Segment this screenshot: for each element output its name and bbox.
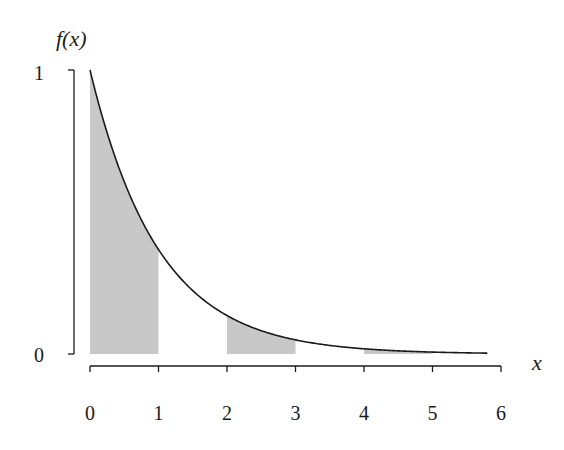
x-tick-labels: 0123456	[85, 402, 506, 424]
x-tick-label-2: 2	[222, 402, 232, 424]
y-tick-label-0: 0	[34, 344, 44, 366]
x-axis	[90, 366, 501, 372]
x-tick-label-5: 5	[428, 402, 438, 424]
x-tick-label-4: 4	[359, 402, 369, 424]
y-axis	[68, 70, 74, 354]
x-tick-label-3: 3	[291, 402, 301, 424]
y-tick-label-1: 1	[34, 62, 44, 84]
x-axis-label: x	[531, 350, 542, 375]
y-axis-label: f(x)	[56, 26, 87, 51]
exponential-density-chart: f(x) 1 0 0123456 x	[0, 0, 564, 450]
x-tick-label-6: 6	[496, 402, 506, 424]
shaded-areas	[90, 70, 433, 354]
x-tick-label-1: 1	[154, 402, 164, 424]
shaded-interval-0-1	[90, 70, 159, 354]
x-tick-label-0: 0	[85, 402, 95, 424]
